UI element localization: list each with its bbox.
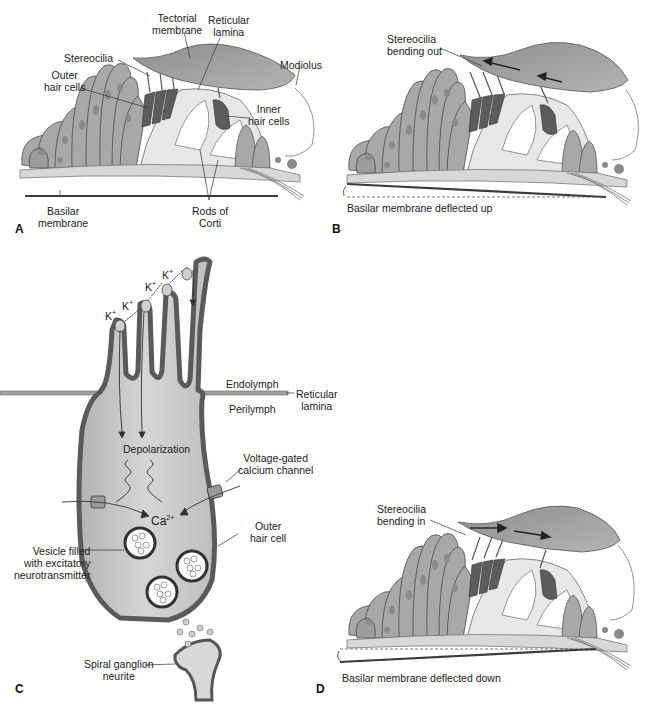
label-line: neurite	[84, 670, 153, 682]
label-stereocilia-bending-out: Stereocilia bending out	[387, 33, 442, 57]
label-stereocilia: Stereocilia	[64, 52, 113, 64]
label-modiolus: Modiolus	[280, 59, 322, 71]
label-line: Inner	[248, 103, 289, 115]
ion-charge: +	[169, 268, 173, 275]
label-line: lamina	[208, 26, 249, 38]
panel-letter-c: C	[15, 682, 24, 696]
label-stereocilia-bending-in: Stereocilia bending in	[377, 503, 426, 527]
label-line: calcium channel	[238, 464, 313, 476]
ion-charge: +	[112, 309, 116, 316]
label-line: Vesicle filled	[14, 545, 90, 557]
label-line: hair cells	[44, 81, 85, 93]
ion-charge: 2+	[166, 514, 174, 521]
label-line: Voltage-gated	[238, 452, 313, 464]
panel-letter-d: D	[316, 682, 325, 696]
label-reticular-lamina: Reticular lamina	[208, 14, 249, 38]
label-line: neurotransmitter	[14, 569, 90, 581]
label-line: Outer	[44, 69, 85, 81]
label-k-ion-4: K+	[162, 266, 173, 281]
label-tectorial-membrane: Tectorial membrane	[152, 12, 202, 36]
ion-symbol: K	[145, 281, 152, 293]
label-line: membrane	[38, 217, 88, 229]
label-k-ion-1: K+	[105, 307, 116, 322]
panel-letter-a: A	[15, 222, 24, 236]
label-calcium-ion: Ca2+	[151, 512, 174, 527]
label-line: Spiral ganglion	[84, 658, 153, 670]
label-depolarization: Depolarization	[123, 443, 190, 455]
ion-symbol: K	[122, 300, 129, 312]
label-line: with excitatory	[14, 557, 90, 569]
label-inner-hair-cells: Inner hair cells	[248, 103, 289, 127]
label-line: membrane	[152, 24, 202, 36]
label-line: lamina	[296, 400, 337, 412]
label-line: Stereocilia	[387, 33, 442, 45]
label-line: Basilar	[38, 205, 88, 217]
label-line: Reticular	[208, 14, 249, 26]
label-line: hair cells	[248, 115, 289, 127]
label-rods-of-corti: Rods of Corti	[192, 205, 228, 229]
ion-symbol: K	[162, 269, 169, 281]
panel-letter-b: B	[332, 222, 341, 236]
label-line: hair cell	[250, 532, 286, 544]
label-voltage-gated-calcium-channel: Voltage-gated calcium channel	[238, 452, 313, 476]
label-line: Corti	[192, 217, 228, 229]
label-outer-hair-cell: Outer hair cell	[250, 520, 286, 544]
label-basilar-deflected-down: Basilar membrane deflected down	[342, 672, 501, 684]
label-line: bending in	[377, 515, 426, 527]
ion-symbol: Ca	[151, 514, 166, 528]
label-outer-hair-cells: Outer hair cells	[44, 69, 85, 93]
label-perilymph: Perilymph	[229, 403, 276, 415]
label-basilar-membrane: Basilar membrane	[38, 205, 88, 229]
label-reticular-lamina-c: Reticular lamina	[296, 388, 337, 412]
label-spiral-ganglion-neurite: Spiral ganglion neurite	[84, 658, 153, 682]
label-line: Outer	[250, 520, 286, 532]
ion-charge: +	[129, 299, 133, 306]
label-basilar-deflected-up: Basilar membrane deflected up	[347, 202, 492, 214]
label-vesicle: Vesicle filled with excitatory neurotran…	[14, 545, 90, 581]
panel-b-illustration	[343, 42, 638, 205]
label-line: Stereocilia	[377, 503, 426, 515]
organ-of-corti-figure	[0, 0, 653, 707]
ion-charge: +	[152, 280, 156, 287]
ion-symbol: K	[105, 310, 112, 322]
label-k-ion-3: K+	[145, 278, 156, 293]
label-endolymph: Endolymph	[226, 378, 279, 390]
label-line: Reticular	[296, 388, 337, 400]
label-line: bending out	[387, 45, 442, 57]
panel-c-hair-cell	[0, 259, 294, 700]
panel-d-illustration	[338, 506, 634, 670]
label-line: Rods of	[192, 205, 228, 217]
label-line: Tectorial	[152, 12, 202, 24]
label-k-ion-2: K+	[122, 297, 133, 312]
